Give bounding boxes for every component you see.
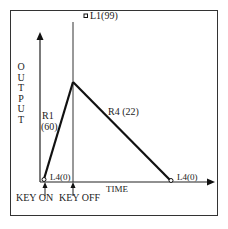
segment-r1-value: (60) (41, 122, 58, 132)
y-axis-label: OUTPUT (16, 62, 26, 125)
point-end-label: L4(0) (177, 172, 198, 182)
point-start-label: L4(0) (50, 172, 71, 182)
key-on-label: KEY ON (16, 193, 53, 203)
point-l1-icon (84, 14, 88, 18)
point-start-icon (42, 178, 46, 182)
y-axis-arrow-icon (37, 32, 44, 40)
segment-r4-label: R4 (22) (108, 107, 139, 117)
point-l1-label: L1(99) (90, 11, 118, 21)
x-axis-arrow-icon (207, 179, 215, 186)
segment-r1-label: R1 (42, 111, 54, 121)
key-off-label: KEY OFF (59, 193, 100, 203)
segment-r4 (73, 82, 170, 180)
point-end-icon (169, 179, 173, 183)
x-axis-label: TIME (106, 184, 128, 194)
key-off-arrow-icon (71, 182, 76, 188)
key-on-arrow-icon (43, 182, 48, 188)
